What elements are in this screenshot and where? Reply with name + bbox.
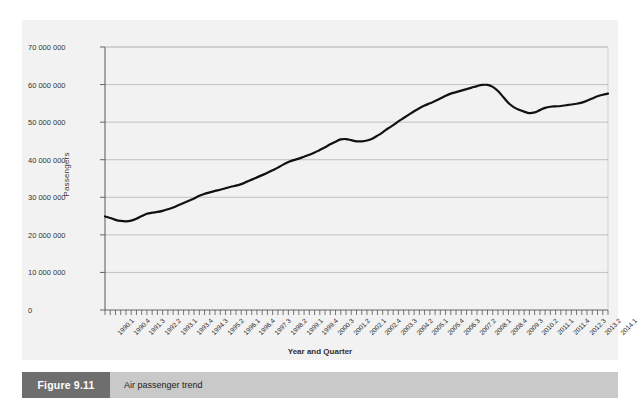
x-axis-tick-label: 1996.4 [257,317,276,336]
figure-number-label: Figure 9.11 [37,379,94,391]
x-axis-tick-label: 1990.1 [116,317,135,336]
x-axis-tick-label: 2011.4 [572,317,591,336]
x-axis-tick-label: 1994.3 [210,317,229,336]
x-axis-tick-label: 2006.3 [462,317,481,336]
chart-panel: 010 000 00020 000 00030 000 00040 000 00… [22,20,618,360]
figure-container: 010 000 00020 000 00030 000 00040 000 00… [0,0,639,413]
y-axis-title: Passengers [62,115,71,235]
x-axis-tick-label: 2004.2 [415,317,434,336]
x-axis-tick-label: 2009.3 [525,317,544,336]
x-axis-tick-label: 2005.1 [430,317,449,336]
x-axis-tick-label: 2011.1 [556,317,575,336]
figure-caption-text: Air passenger trend [110,372,203,398]
x-axis-tick-label: 2000.3 [336,317,355,336]
x-axis-tick-label: 2012.3 [587,317,606,336]
x-axis-tick-label: 1991.3 [147,317,166,336]
x-axis-tick-label: 1995.2 [226,317,245,336]
x-axis-tick-label: 2008.4 [509,317,528,336]
x-axis-tick-label: 2002.1 [367,317,386,336]
figure-number-box: Figure 9.11 [22,372,110,398]
x-axis-tick-label: 2010.2 [540,317,559,336]
x-axis-tick-label: 1999.1 [305,317,324,336]
x-axis-tick-label: 1997.3 [273,317,292,336]
figure-caption-bar: Figure 9.11 Air passenger trend [22,372,618,398]
x-axis-tick-label: 1998.2 [289,317,308,336]
x-axis-tick-label: 1990.4 [132,317,151,336]
x-axis-tick-labels: 1990.11990.41991.31992.21993.11993.41994… [22,20,618,360]
x-axis-tick-label: 2001.2 [352,317,371,336]
x-axis-tick-label: 2003.3 [399,317,418,336]
x-axis-tick-label: 1993.4 [195,317,214,336]
x-axis-tick-label: 1992.2 [163,317,182,336]
x-axis-tick-label: 2005.4 [446,317,465,336]
x-axis-tick-label: 1993.1 [179,317,198,336]
x-axis-tick-label: 2007.2 [477,317,496,336]
x-axis-tick-label: 1999.4 [320,317,339,336]
x-axis-tick-label: 2014.1 [619,317,638,336]
x-axis-tick-label: 2013.2 [603,317,622,336]
x-axis-title: Year and Quarter [22,347,618,356]
